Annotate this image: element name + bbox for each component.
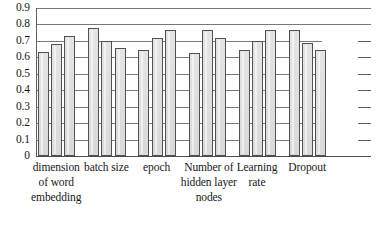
y-tick-label: 0.8 <box>0 18 30 30</box>
bar <box>265 30 276 156</box>
x-axis-category-label-line: Dropout <box>278 160 336 175</box>
x-axis-category-label: batch size <box>75 160 137 175</box>
y-tick-label: 0.9 <box>0 2 30 14</box>
bar <box>152 38 163 156</box>
bar <box>315 50 326 156</box>
y-tick-label: 0.1 <box>0 134 30 146</box>
bar <box>64 36 75 156</box>
bar <box>38 52 49 156</box>
x-axis-category-label-line: of word <box>19 175 93 190</box>
y-axis: 0.90.80.70.60.50.40.30.20.10 <box>0 0 30 160</box>
y-tick-label: 0.5 <box>0 68 30 80</box>
x-axis-category-label-line: batch size <box>75 160 137 175</box>
x-axis-category-label: Dropout <box>278 160 336 175</box>
x-axis-category-label-line: rate <box>226 175 288 190</box>
y-tick-label: 0.6 <box>0 51 30 63</box>
x-axis-category-labels: dimensionof wordembeddingbatch sizeepoch… <box>36 160 379 222</box>
x-axis-category-label-line: nodes <box>171 190 247 205</box>
bar <box>51 44 62 156</box>
bar <box>215 38 226 156</box>
bar <box>239 50 250 156</box>
bar <box>115 48 126 156</box>
y-tick-label: 0.2 <box>0 117 30 129</box>
y-tick-label: 0.3 <box>0 101 30 113</box>
bar <box>101 41 112 156</box>
bar <box>88 28 99 156</box>
bar-chart: 0.90.80.70.60.50.40.30.20.10 dimensionof… <box>0 0 379 225</box>
bar <box>138 50 149 156</box>
y-tick-label: 0.4 <box>0 84 30 96</box>
bar <box>189 53 200 156</box>
x-axis-category-label-line: embedding <box>19 190 93 205</box>
bar <box>165 30 176 156</box>
y-tick-label: 0.7 <box>0 35 30 47</box>
bar <box>252 41 263 156</box>
bar <box>202 30 213 156</box>
bars-layer <box>36 0 371 157</box>
bar <box>289 30 300 156</box>
bar <box>302 43 313 156</box>
